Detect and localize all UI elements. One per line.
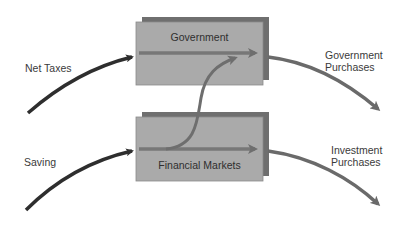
government-purchases-label-line1: Government (325, 49, 383, 61)
saving-label: Saving (24, 156, 56, 168)
government-label: Government (136, 31, 263, 43)
flow-diagram: Government Financial Markets Net Taxes S… (0, 0, 409, 226)
government-purchases-label: Government Purchases (325, 49, 383, 73)
net-taxes-label: Net Taxes (25, 62, 72, 74)
financial-markets-label: Financial Markets (136, 159, 263, 171)
government-box (136, 17, 269, 85)
investment-purchases-label-line1: Investment (331, 144, 382, 156)
investment-purchases-label: Investment Purchases (331, 144, 382, 168)
government-purchases-label-line2: Purchases (325, 61, 383, 73)
investment-purchases-label-line2: Purchases (331, 156, 382, 168)
